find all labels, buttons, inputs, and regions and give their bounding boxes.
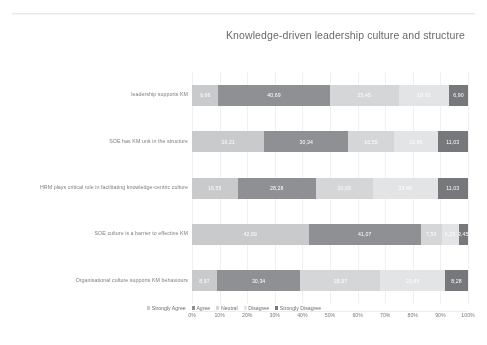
legend-item[interactable]: Agree — [192, 305, 211, 311]
legend-swatch-icon — [244, 306, 247, 309]
bar-segment: 3,45 — [459, 224, 468, 245]
legend-label: Strongly Disagree — [280, 305, 321, 311]
bar-segment: 16,55 — [348, 131, 394, 152]
legend-item[interactable]: Disagree — [244, 305, 269, 311]
table-row: 9,6640,6925,4518,316,90 — [192, 85, 468, 106]
bar-segment: 11,03 — [438, 178, 468, 199]
x-axis-tick-labels: 0%10%20%30%40%50%60%70%80%90%100% — [192, 312, 468, 322]
chart-legend: Strongly AgreeAgreeNeutralDisagreeStrong… — [147, 305, 321, 311]
x-axis-tick: 30% — [270, 312, 280, 318]
legend-label: Neutral — [221, 305, 238, 311]
legend-item[interactable]: Neutral — [216, 305, 237, 311]
legend-swatch-icon — [216, 306, 219, 309]
x-axis-tick: 40% — [297, 312, 307, 318]
plot-area: leadership supports KM9,6640,6925,4518,3… — [192, 72, 468, 304]
legend-label: Agree — [196, 305, 210, 311]
x-axis-tick: 0% — [188, 312, 196, 318]
bar-segment: 18,31 — [399, 85, 449, 106]
x-axis-tick: 90% — [435, 312, 445, 318]
bar-segment: 41,07 — [309, 224, 421, 245]
bar-segment: 20,69 — [316, 178, 373, 199]
x-axis-tick: 50% — [325, 312, 335, 318]
legend-label: Strongly Agree — [152, 305, 186, 311]
category-label: Organisational culture supports KM behav… — [2, 277, 188, 283]
x-axis-tick: 20% — [242, 312, 252, 318]
category-label: SOE has KM unit in the structure — [2, 138, 188, 144]
table-row: 26,2130,3416,5515,8611,03 — [192, 131, 468, 152]
bar-segment: 40,69 — [218, 85, 329, 106]
bar-segment: 28,28 — [238, 178, 316, 199]
bar-segment: 26,21 — [192, 131, 264, 152]
bar-segment: 9,66 — [192, 85, 218, 106]
bar-segment: 8,97 — [192, 270, 217, 291]
legend-item[interactable]: Strongly Disagree — [275, 305, 321, 311]
legend-swatch-icon — [147, 306, 150, 309]
x-axis-tick: 60% — [352, 312, 362, 318]
x-axis-tick: 80% — [408, 312, 418, 318]
bar-segment: 23,45 — [380, 270, 445, 291]
bar-segment: 30,34 — [217, 270, 301, 291]
bar-segment: 11,03 — [438, 131, 468, 152]
category-label: HRM plays critical role in facilitating … — [2, 184, 188, 190]
table-row: 8,9730,3428,9723,458,28 — [192, 270, 468, 291]
chart-title: Knowledge-driven leadership culture and … — [226, 29, 476, 41]
bar-segment: 6,23 — [442, 224, 459, 245]
x-axis-tick: 70% — [380, 312, 390, 318]
table-row: 42,6941,077,596,233,45 — [192, 224, 468, 245]
bar-segment: 30,34 — [264, 131, 348, 152]
table-row: 16,5528,2820,6923,4511,03 — [192, 178, 468, 199]
legend-label: Disagree — [248, 305, 269, 311]
gridline — [468, 72, 469, 304]
legend-swatch-icon — [275, 306, 278, 309]
bar-segment: 16,55 — [192, 178, 238, 199]
bar-segment: 15,86 — [394, 131, 438, 152]
legend-swatch-icon — [192, 306, 195, 309]
bar-segment: 7,59 — [421, 224, 442, 245]
category-label: SOE culture is a barrier to effective KM — [2, 230, 188, 236]
x-axis-tick: 100% — [461, 312, 474, 318]
x-axis-tick: 10% — [214, 312, 224, 318]
bar-segment: 6,90 — [449, 85, 468, 106]
bar-segment: 8,28 — [445, 270, 468, 291]
stacked-bar-chart: Knowledge-driven leadership culture and … — [0, 0, 487, 345]
bar-segment: 42,69 — [192, 224, 309, 245]
bar-segment: 28,97 — [300, 270, 380, 291]
bar-segment: 25,45 — [330, 85, 400, 106]
legend-item[interactable]: Strongly Agree — [147, 305, 186, 311]
category-label: leadership supports KM — [2, 91, 188, 97]
bar-segment: 23,45 — [373, 178, 438, 199]
